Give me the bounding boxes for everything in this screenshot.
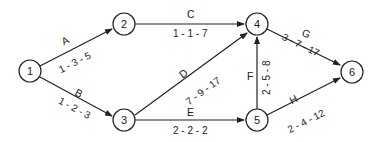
node-6: 6 <box>341 61 363 83</box>
activity-label-E: E <box>187 106 194 118</box>
node-1: 1 <box>19 60 41 82</box>
node-label-5: 5 <box>254 114 260 126</box>
node-label-4: 4 <box>254 18 260 30</box>
activity-label-F: F <box>247 70 253 82</box>
estimate-label-D: 7 - 9 - 17 <box>184 74 223 107</box>
node-5: 5 <box>246 109 268 131</box>
node-label-6: 6 <box>349 66 355 78</box>
node-label-1: 1 <box>27 65 33 77</box>
pert-network-diagram: A B C D E F G H 1 - 3 - 5 1 - 2 - 3 1 - … <box>0 0 385 142</box>
estimate-label-H: 2 - 4 - 12 <box>286 107 327 135</box>
activity-label-G: G <box>300 26 313 40</box>
estimate-label-F: 2 - 5 - 8 <box>261 60 272 95</box>
edge-H <box>267 78 340 115</box>
activity-label-A: A <box>59 33 71 47</box>
estimate-label-B: 1 - 2 - 3 <box>57 95 93 121</box>
activity-label-B: B <box>73 86 85 100</box>
node-2: 2 <box>113 13 135 35</box>
estimate-label-C: 1 - 1 - 7 <box>173 28 208 39</box>
activity-label-C: C <box>187 8 195 20</box>
node-label-2: 2 <box>121 18 127 30</box>
activity-label-D: D <box>177 66 191 80</box>
estimate-label-E: 2 - 2 - 2 <box>173 125 208 136</box>
node-3: 3 <box>113 109 135 131</box>
node-label-3: 3 <box>121 114 127 126</box>
estimate-label-A: 1 - 3 - 5 <box>57 49 93 75</box>
node-4: 4 <box>246 13 268 35</box>
